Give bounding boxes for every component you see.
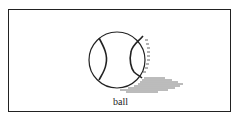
ball-outline <box>89 32 145 88</box>
figure-caption: ball <box>0 96 241 107</box>
ball-illustration <box>0 0 241 126</box>
